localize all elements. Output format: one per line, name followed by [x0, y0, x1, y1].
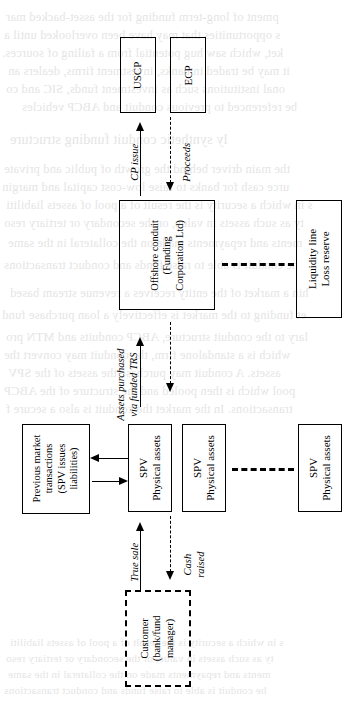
edge-assets-trs-return-arrowhead	[166, 383, 174, 392]
ghost-text-line: pment of long-term funding for the asset…	[6, 10, 279, 25]
ghost-text-line: lary to the conduit structure, ABCP cond…	[6, 330, 308, 345]
cash-raised-line-2: raised	[195, 551, 206, 577]
edge-cp-issue-arrowhead	[136, 122, 144, 131]
edge-cash-raised-line	[170, 516, 171, 572]
spv3-line-1: SPV	[307, 458, 319, 478]
prev-line-3: (SPV issues	[56, 444, 67, 494]
conduit-line-3: Corporation Ltd)	[173, 220, 184, 291]
node-spv-2-label: SPV Physical assets	[191, 435, 217, 501]
node-offshore-conduit[interactable]: Offshore conduit (Funding Corporation Lt…	[119, 200, 215, 310]
node-uscp[interactable]: USCP	[120, 37, 156, 113]
ghost-text-line: assets. A conduit may purchase the asset…	[8, 366, 281, 381]
diagram-canvas: pment of long-term funding for the asset…	[0, 0, 364, 726]
assets-trs-line-2: via funded TRS	[128, 353, 139, 417]
prev-line-4: liabilities)	[68, 448, 79, 490]
liquidity-line-1: Liquidity line	[306, 229, 318, 289]
spv1-line-2: Physical assets	[150, 435, 162, 501]
conduit-line-2: (Funding	[161, 236, 172, 274]
node-customer-label: Customer (bank/fund manager)	[140, 616, 177, 662]
node-offshore-conduit-label: Offshore conduit (Funding Corporation Lt…	[149, 220, 186, 291]
spv1-line-1: SPV	[137, 458, 149, 478]
node-uscp-label: USCP	[132, 61, 145, 89]
liquidity-line-2: Loss reserve	[319, 231, 331, 286]
edge-label-assets-trs: Assets purchased via funded TRS	[115, 332, 140, 438]
edge-spv-to-prev-arrowhead	[90, 454, 99, 462]
node-liquidity-line-label: Liquidity line Loss reserve	[306, 229, 332, 289]
customer-line-3: manager)	[164, 619, 175, 658]
edge-proceeds-line	[170, 117, 171, 183]
customer-line-1: Customer	[140, 618, 151, 658]
conduit-line-1: Offshore conduit	[149, 220, 160, 291]
node-spv-2[interactable]: SPV Physical assets	[182, 424, 226, 512]
node-liquidity-line[interactable]: Liquidity line Loss reserve	[296, 200, 342, 318]
customer-line-2: (bank/fund	[152, 616, 163, 662]
edge-spv-to-prev-line	[99, 458, 128, 459]
edge-cash-raised-arrowhead	[166, 571, 174, 580]
spv2-line-2: Physical assets	[204, 435, 216, 501]
ghost-text-line: which is a standalone firm, the conduit …	[4, 348, 290, 363]
node-spv-1[interactable]: SPV Physical assets	[128, 424, 172, 512]
node-spv-3[interactable]: SPV Physical assets	[298, 424, 342, 512]
edge-assets-trs-return-line	[170, 322, 171, 384]
assets-trs-line-1: Assets purchased	[115, 348, 126, 420]
ghost-text-line: the main driver behind the growth of pub…	[4, 162, 290, 177]
ghost-text-line: be referenced to previous conduit and AB…	[22, 100, 297, 115]
spv2-line-1: SPV	[191, 458, 203, 478]
ghost-text-line: ly synthetic conduit funding structure	[10, 132, 228, 148]
node-spv-3-label: SPV Physical assets	[307, 435, 333, 501]
node-ecp-label: ECP	[182, 65, 195, 85]
ghost-text-line: transactions. In the market the conduit …	[6, 402, 293, 417]
edge-prev-to-spv-arrowhead	[119, 477, 128, 485]
node-ecp[interactable]: ECP	[170, 37, 206, 113]
node-customer[interactable]: Customer (bank/fund manager)	[125, 590, 191, 687]
ghost-text-line: pool which is then pooled and the struct…	[4, 384, 295, 399]
edge-prev-to-spv-line	[92, 481, 120, 482]
edge-label-true-sale: True sale	[129, 528, 142, 596]
spv3-line-2: Physical assets	[320, 435, 332, 501]
prev-line-2: transactions	[44, 444, 55, 494]
node-previous-market-transactions[interactable]: Previous market transactions (SPV issues…	[22, 424, 90, 514]
prev-line-1: Previous market	[31, 435, 42, 503]
edge-label-proceeds: Proceeds	[181, 127, 194, 197]
edge-spv-series-connector	[232, 468, 294, 471]
ghost-text-line: et funding to the market is effectively …	[2, 308, 306, 323]
edge-conduit-liquidity-connector	[222, 263, 294, 266]
edge-label-cp-issue: CP issue	[129, 131, 142, 193]
ghost-text-line: urce cash for banks to raise low-cost ca…	[2, 180, 289, 195]
node-previous-market-transactions-label: Previous market transactions (SPV issues…	[31, 435, 80, 503]
node-spv-1-label: SPV Physical assets	[137, 435, 163, 501]
cash-raised-line-1: Cash	[182, 554, 193, 576]
edge-proceeds-arrowhead	[166, 182, 174, 191]
